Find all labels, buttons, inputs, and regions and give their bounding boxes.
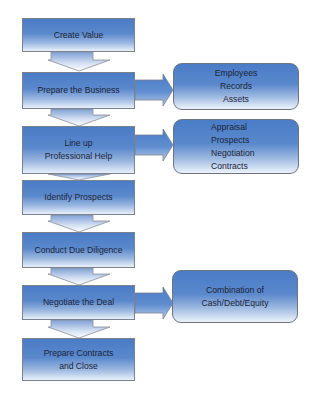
step-label: Identify Prospects: [44, 191, 112, 204]
right-arrow-icon: [135, 129, 173, 161]
detail-prepare-business: Employees Records Assets: [173, 63, 299, 110]
step-label: Create Value: [54, 29, 104, 42]
step-create-value: Create Value: [22, 18, 135, 52]
step-label: Prepare Contracts and Close: [44, 347, 114, 373]
step-label: Prepare the Business: [37, 84, 119, 97]
down-arrow-icon: [48, 52, 110, 71]
right-arrow-icon: [135, 74, 173, 106]
detail-professional-help: Appraisal Prospects Negotiation Contract…: [173, 119, 299, 174]
step-prepare-contracts-close: Prepare Contracts and Close: [22, 338, 135, 381]
process-flow-diagram: Create Value Prepare the Business Line u…: [0, 0, 315, 400]
detail-label: Employees Records Assets: [215, 67, 258, 106]
down-arrow-icon: [48, 268, 110, 285]
step-negotiate-deal: Negotiate the Deal: [22, 285, 135, 320]
step-conduct-due-diligence: Conduct Due Diligence: [22, 232, 135, 268]
step-label: Conduct Due Diligence: [35, 244, 123, 257]
detail-label: Combination of Cash/Debt/Equity: [202, 284, 269, 310]
down-arrow-icon: [48, 215, 110, 232]
step-label: Line up Professional Help: [45, 137, 112, 163]
down-arrow-icon: [48, 109, 110, 126]
step-label: Negotiate the Deal: [43, 296, 114, 309]
right-arrow-icon: [135, 287, 173, 319]
down-arrow-icon: [48, 320, 110, 338]
step-line-up-professional-help: Line up Professional Help: [22, 126, 135, 174]
step-identify-prospects: Identify Prospects: [22, 180, 135, 215]
detail-negotiate-deal: Combination of Cash/Debt/Equity: [172, 270, 298, 323]
detail-label: Appraisal Prospects Negotiation Contract…: [211, 121, 254, 173]
step-prepare-business: Prepare the Business: [22, 72, 135, 109]
